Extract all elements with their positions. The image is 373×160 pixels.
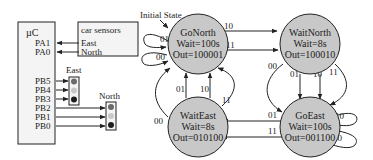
initial-state-arrow (160, 20, 168, 28)
state-goeast: GoEast Wait=100s Out=001100 (280, 97, 340, 157)
state-waitnorth-wait: Wait=8s (293, 38, 326, 49)
sensor-north-label: North (81, 47, 102, 57)
east-red-lamp (71, 79, 77, 85)
state-waiteast-name: WaitEast (180, 110, 216, 121)
state-waiteast-wait: Wait=8s (181, 121, 214, 132)
label-gonorth-self-00: 00 (156, 52, 166, 62)
north-red-lamp (108, 104, 114, 110)
microcontroller-label: µC (26, 27, 39, 38)
north-light-label: North (99, 91, 120, 101)
pin-pb0: PB0 (35, 121, 51, 131)
north-green-lamp (108, 122, 114, 128)
state-waitnorth: WaitNorth Wait=8s Out=100010 (280, 14, 340, 74)
pin-pa0: PA0 (35, 47, 51, 57)
state-goeast-name: GoEast (295, 110, 325, 121)
north-yellow-lamp (108, 113, 114, 119)
label-goeast-waiteast-11: 11 (268, 126, 277, 136)
state-gonorth-name: GoNorth (180, 27, 216, 38)
initial-state-label: Initial State (140, 10, 182, 20)
state-waitnorth-name: WaitNorth (289, 27, 331, 38)
label-waiteast-gonorth-01: 01 (176, 84, 185, 94)
transition-waiteast-gonorth-00 (155, 68, 170, 117)
label-goeast-waiteast-01: 01 (268, 110, 277, 120)
east-yellow-lamp (71, 88, 77, 94)
state-goeast-wait: Wait=100s (288, 121, 331, 132)
state-waiteast: WaitEast Wait=8s Out=010100 (168, 97, 228, 157)
traffic-light-fsm-diagram: µC PA1 PA0 PB5 PB4 PB3 PB2 PB1 PB0 car s… (0, 0, 373, 160)
label-gonorth-waitnorth-10: 10 (224, 21, 234, 31)
state-goeast-out: Out=001100 (285, 132, 335, 143)
east-green-lamp (71, 97, 77, 103)
state-waitnorth-out: Out=100010 (285, 49, 336, 60)
label-waiteast-gonorth-11: 11 (222, 95, 231, 105)
state-gonorth-wait: Wait=100s (176, 38, 219, 49)
label-waiteast-gonorth-00: 00 (154, 116, 164, 126)
label-waiteast-gonorth-10: 10 (200, 84, 210, 94)
car-sensors-title: car sensors (81, 25, 121, 35)
state-waiteast-out: Out=010100 (173, 132, 224, 143)
east-light-label: East (66, 65, 82, 75)
state-gonorth-out: Out=100001 (173, 49, 224, 60)
state-gonorth: GoNorth Wait=100s Out=100001 (168, 14, 228, 74)
transition-waitnorth-goeast-00 (267, 64, 283, 112)
label-waitnorth-goeast-00: 00 (268, 61, 278, 71)
label-waitnorth-goeast-11: 11 (329, 67, 338, 77)
